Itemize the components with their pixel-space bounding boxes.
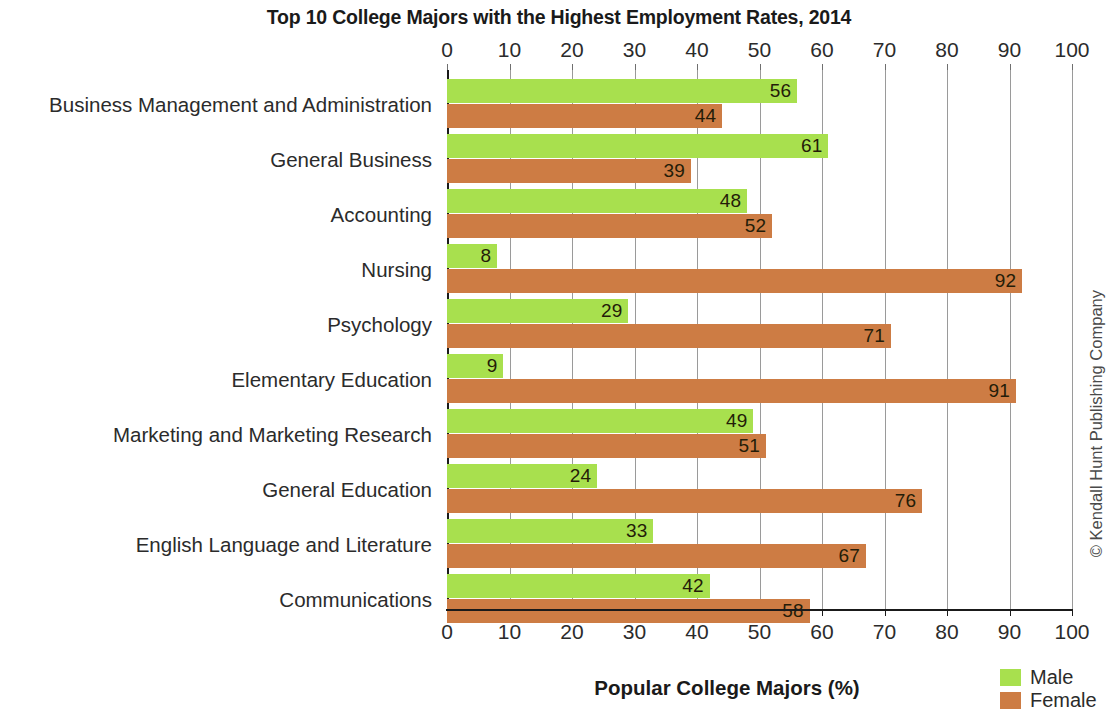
category-label: Business Management and Administration (0, 93, 440, 117)
category-label: General Education (0, 478, 440, 502)
top-tick-label-50: 50 (730, 38, 790, 62)
bar-female (447, 214, 772, 238)
bottom-tick-label-20: 20 (542, 620, 602, 644)
top-tick-label-40: 40 (667, 38, 727, 62)
bar-female (447, 379, 1016, 403)
bar-male (447, 79, 797, 103)
bottom-tick-label-10: 10 (480, 620, 540, 644)
bottom-tick-label-50: 50 (730, 620, 790, 644)
category-label: Accounting (0, 203, 440, 227)
bar-value-label: 58 (782, 600, 803, 622)
bar-value-label: 44 (695, 105, 716, 127)
top-tick-label-60: 60 (792, 38, 852, 62)
gridline-100 (1072, 70, 1073, 610)
bottom-tick-label-0: 0 (417, 620, 477, 644)
chart-legend: MaleFemale (1000, 666, 1097, 712)
legend-label: Male (1030, 667, 1073, 688)
bar-male (447, 574, 710, 598)
category-label: Communications (0, 588, 440, 612)
bar-female (447, 324, 891, 348)
bottom-tick-label-80: 80 (917, 620, 977, 644)
bar-male (447, 134, 828, 158)
category-label: Psychology (0, 313, 440, 337)
bar-value-label: 9 (487, 355, 498, 377)
category-label: Nursing (0, 258, 440, 282)
bar-value-label: 29 (601, 300, 622, 322)
bar-male (447, 519, 653, 543)
category-label: Elementary Education (0, 368, 440, 392)
top-tick-label-80: 80 (917, 38, 977, 62)
x-axis-title: Popular College Majors (%) (447, 676, 1007, 700)
bar-value-label: 52 (745, 215, 766, 237)
x-axis-line (446, 609, 1073, 611)
bar-value-label: 33 (626, 520, 647, 542)
bar-value-label: 71 (864, 325, 885, 347)
category-label: General Business (0, 148, 440, 172)
bar-female (447, 159, 691, 183)
legend-item: Female (1000, 689, 1097, 712)
top-tick-label-10: 10 (480, 38, 540, 62)
bar-value-label: 24 (570, 465, 591, 487)
copyright-notice: © Kendall Hunt Publishing Company (1087, 290, 1106, 557)
bottom-tick-label-30: 30 (605, 620, 665, 644)
top-tick-label-100: 100 (1042, 38, 1102, 62)
top-tick-label-70: 70 (855, 38, 915, 62)
top-tick-label-30: 30 (605, 38, 665, 62)
bar-value-label: 61 (801, 135, 822, 157)
top-tick-label-20: 20 (542, 38, 602, 62)
category-label: Marketing and Marketing Research (0, 423, 440, 447)
bar-value-label: 8 (480, 245, 491, 267)
category-axis-labels: Business Management and AdministrationGe… (0, 0, 440, 712)
bottom-tick-label-40: 40 (667, 620, 727, 644)
category-label: English Language and Literature (0, 533, 440, 557)
bar-value-label: 49 (726, 410, 747, 432)
gridline-90 (1010, 70, 1011, 610)
plot-area: 56446139485289229719914951247633674258 (447, 70, 1072, 610)
bar-value-label: 76 (895, 490, 916, 512)
legend-swatch-icon (1000, 669, 1021, 686)
legend-swatch-icon (1000, 692, 1021, 709)
bar-female (447, 104, 722, 128)
bar-female (447, 544, 866, 568)
bar-female (447, 269, 1022, 293)
bar-value-label: 51 (739, 435, 760, 457)
bottom-tick-label-60: 60 (792, 620, 852, 644)
bar-value-label: 48 (720, 190, 741, 212)
bar-male (447, 409, 753, 433)
top-tick-label-90: 90 (980, 38, 1040, 62)
bar-value-label: 91 (989, 380, 1010, 402)
bar-female (447, 489, 922, 513)
bottom-tick-label-70: 70 (855, 620, 915, 644)
bar-male (447, 189, 747, 213)
gridline-80 (947, 70, 948, 610)
bar-value-label: 42 (682, 575, 703, 597)
bottom-tick-label-90: 90 (980, 620, 1040, 644)
bar-female (447, 434, 766, 458)
bar-value-label: 39 (664, 160, 685, 182)
legend-item: Male (1000, 666, 1097, 689)
bar-value-label: 92 (995, 270, 1016, 292)
legend-label: Female (1030, 690, 1097, 711)
top-tick-label-0: 0 (417, 38, 477, 62)
bottom-tick-label-100: 100 (1042, 620, 1102, 644)
bar-female (447, 599, 810, 623)
bar-value-label: 56 (770, 80, 791, 102)
bar-value-label: 67 (839, 545, 860, 567)
